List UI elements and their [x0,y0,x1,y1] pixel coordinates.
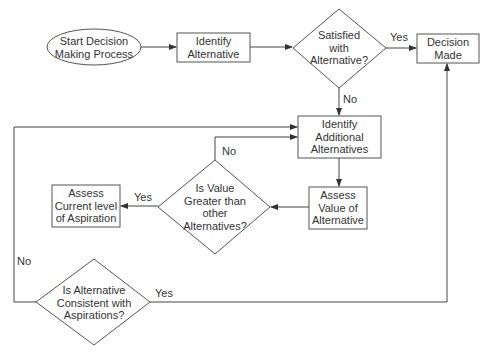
greater-no-label: No [222,145,236,157]
identify-additional-node: Identify Additional Alternatives [298,118,381,156]
decision-made-line1: Decision [417,36,479,49]
is-value-greater-line3: other [170,207,260,220]
identify-additional-line1: Identify [298,118,381,131]
consistent-no-label: No [17,255,31,267]
consistent-yes-label: Yes [155,287,173,299]
satisfied-yes-label: Yes [390,31,408,43]
identify-line2: Alternative [177,48,250,61]
assess-value-line1: Assess [309,189,367,202]
start-line2: Making Process [47,48,141,61]
assess-value-node: Assess Value of Alternative [309,189,367,227]
satisfied-node: Satisfied with Alternative? [299,29,379,67]
assess-aspiration-line3: of Aspiration [52,212,120,225]
greater-yes-label: Yes [134,191,152,203]
satisfied-line3: Alternative? [299,54,379,67]
assess-value-line3: Alternative [309,214,367,227]
is-value-greater-node: Is Value Greater than other Alternatives… [170,182,260,232]
assess-aspiration-line1: Assess [52,187,120,200]
identify-line1: Identify [177,35,250,48]
satisfied-line1: Satisfied [299,29,379,42]
decision-made-node: Decision Made [417,36,479,61]
is-value-greater-line2: Greater than [170,195,260,208]
decision-made-line2: Made [417,49,479,62]
identify-alternative-node: Identify Alternative [177,35,250,60]
assess-value-line2: Value of [309,202,367,215]
assess-aspiration-node: Assess Current level of Aspiration [52,187,120,225]
satisfied-no-label: No [343,93,357,105]
start-line1: Start Decision [47,35,141,48]
is-value-greater-line4: Alternatives? [170,220,260,233]
start-node: Start Decision Making Process [47,35,141,60]
is-consistent-line3: Aspirations? [49,309,139,322]
satisfied-line2: with [299,42,379,55]
identify-additional-line3: Alternatives [298,143,381,156]
is-value-greater-line1: Is Value [170,182,260,195]
is-consistent-line2: Consistent with [49,297,139,310]
assess-aspiration-line2: Current level [52,200,120,213]
is-consistent-node: Is Alternative Consistent with Aspiratio… [49,284,139,322]
is-consistent-line1: Is Alternative [49,284,139,297]
identify-additional-line2: Additional [298,131,381,144]
